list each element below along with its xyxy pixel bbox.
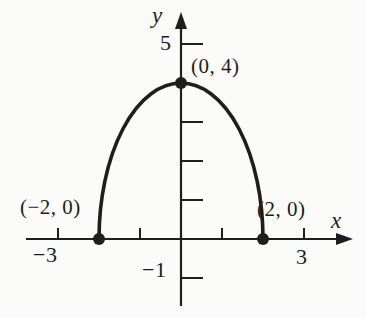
y-axis-arrowhead [175, 12, 187, 29]
y-axis-label: y [152, 4, 162, 27]
figure-canvas [0, 0, 366, 318]
ellipse-arch-plot: y x 5 −1 −3 3 (0, 4) (−2, 0) (2, 0) [0, 0, 366, 318]
x-tick-label-3: 3 [296, 246, 308, 268]
y-tick-label-5: 5 [160, 32, 172, 54]
point-label-2-0: (2, 0) [257, 199, 306, 220]
point-label-neg2-0: (−2, 0) [20, 197, 81, 218]
y-tick-label-neg1: −1 [142, 259, 166, 281]
data-point--2-0 [93, 233, 105, 245]
x-tick-label-neg3: −3 [33, 244, 57, 266]
point-label-0-4: (0, 4) [191, 56, 240, 77]
x-axis-arrowhead [336, 233, 353, 245]
x-axis-label: x [331, 209, 341, 232]
data-point-2-0 [257, 233, 269, 245]
data-point-0-4 [175, 77, 187, 89]
